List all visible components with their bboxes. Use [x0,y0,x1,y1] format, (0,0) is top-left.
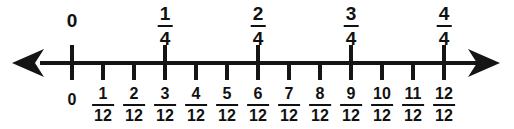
fraction-numerator: 2 [123,86,145,103]
number-line-axis [40,61,492,65]
fraction-numerator: 3 [154,86,176,103]
fraction: 412 [185,86,207,124]
label-below-11-over-12: 1112 [402,86,424,124]
fraction-denominator: 4 [158,28,173,48]
label-below-3-over-12: 312 [154,86,176,124]
fraction-numerator: 4 [185,86,207,103]
fraction-bar [92,104,114,106]
tick-major [70,45,74,80]
label-below-10-over-12: 1012 [371,86,393,124]
fraction: 512 [216,86,238,124]
fraction-bar [402,104,424,106]
fraction: 712 [278,86,300,124]
label-below-5-over-12: 512 [216,86,238,124]
label-below-2-over-12: 212 [123,86,145,124]
label-above-2-over-4: 24 [251,4,266,48]
label-below-4-over-12: 412 [185,86,207,124]
fraction-bar [371,104,393,106]
tick-major [349,45,353,80]
fraction-denominator: 12 [216,107,238,124]
fraction-numerator: 3 [344,4,359,24]
tick-minor [225,61,229,80]
fraction-numerator: 5 [216,86,238,103]
fraction: 912 [340,86,362,124]
fraction-bar [251,25,266,27]
fraction-bar [433,104,455,106]
right-arrowhead-icon [466,47,500,79]
fraction-denominator: 4 [344,28,359,48]
tick-minor [380,61,384,80]
fraction: 44 [437,4,452,48]
left-arrowhead-icon [12,47,46,79]
label-above-3-over-4: 34 [344,4,359,48]
label-whole-number: 0 [68,92,77,108]
tick-minor [101,61,105,80]
fraction-bar [154,104,176,106]
fraction-bar [123,104,145,106]
fraction: 34 [344,4,359,48]
fraction-denominator: 12 [92,107,114,124]
fraction-denominator: 12 [433,107,455,124]
fraction-numerator: 12 [433,86,455,103]
number-line-figure: 014243444 011221231241251261271281291210… [0,0,514,129]
fraction-denominator: 4 [251,28,266,48]
label-whole-number: 0 [67,11,78,30]
tick-minor [132,61,136,80]
fraction-denominator: 12 [340,107,362,124]
label-below-7-over-12: 712 [278,86,300,124]
fraction-numerator: 7 [278,86,300,103]
fraction-numerator: 9 [340,86,362,103]
fraction-numerator: 11 [402,86,424,103]
fraction-bar [437,25,452,27]
tick-minor [194,61,198,80]
tick-minor [411,61,415,80]
fraction-denominator: 12 [309,107,331,124]
fraction: 112 [92,86,114,124]
fraction-denominator: 12 [371,107,393,124]
fraction-denominator: 12 [402,107,424,124]
tick-major [442,45,446,80]
fraction-bar [185,104,207,106]
tick-minor [287,61,291,80]
fraction-denominator: 12 [278,107,300,124]
fraction-bar [247,104,269,106]
fraction-denominator: 12 [185,107,207,124]
tick-major [256,45,260,80]
label-below-6-over-12: 612 [247,86,269,124]
tick-major [163,45,167,80]
fraction: 212 [123,86,145,124]
label-below-8-over-12: 812 [309,86,331,124]
fraction-denominator: 12 [123,107,145,124]
fraction: 14 [158,4,173,48]
fraction: 24 [251,4,266,48]
fraction-bar [340,104,362,106]
fraction-bar [216,104,238,106]
label-below-1-over-12: 112 [92,86,114,124]
label-below-12-over-12: 1212 [433,86,455,124]
fraction-denominator: 12 [247,107,269,124]
fraction-numerator: 4 [437,4,452,24]
fraction: 1012 [371,86,393,124]
fraction-numerator: 2 [251,4,266,24]
fraction-bar [278,104,300,106]
fraction-numerator: 6 [247,86,269,103]
fraction-bar [309,104,331,106]
label-above-4-over-4: 44 [437,4,452,48]
label-above-1-over-4: 14 [158,4,173,48]
fraction-numerator: 1 [158,4,173,24]
fraction: 312 [154,86,176,124]
label-above-0: 0 [67,11,78,30]
label-below-0: 0 [68,92,77,108]
fraction-numerator: 8 [309,86,331,103]
fraction: 1112 [402,86,424,124]
fraction: 612 [247,86,269,124]
fraction-bar [158,25,173,27]
fraction-denominator: 12 [154,107,176,124]
fraction-numerator: 1 [92,86,114,103]
fraction-denominator: 4 [437,28,452,48]
fraction: 812 [309,86,331,124]
tick-minor [318,61,322,80]
fraction-bar [344,25,359,27]
label-below-9-over-12: 912 [340,86,362,124]
fraction: 1212 [433,86,455,124]
